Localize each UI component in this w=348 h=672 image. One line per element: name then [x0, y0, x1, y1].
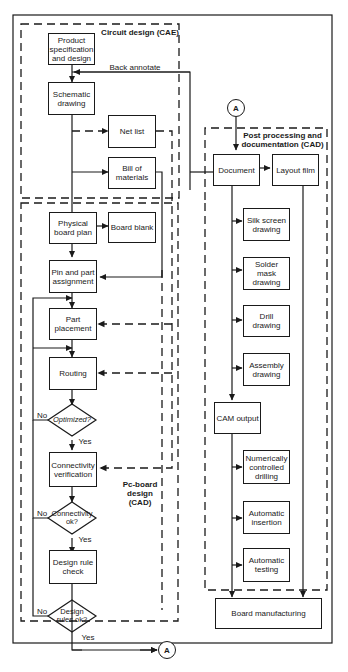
edge-label-back-annotate: Back annotate	[105, 63, 165, 72]
decision-design-rules-ok-label: Design rules ok?	[52, 604, 92, 628]
edge-label-yes-connectivity: Yes	[77, 535, 93, 544]
decision-optimized-label: Optimized?	[48, 414, 96, 426]
box-document: Document	[213, 154, 260, 186]
box-pin-and-part-assignment: Pin and part assignment	[49, 260, 97, 293]
box-schematic-drawing: Schematic drawing	[48, 82, 95, 115]
box-solder-mask-drawing: Solder mask drawing	[243, 257, 290, 290]
box-silk-screen-drawing: Silk screen drawing	[243, 208, 290, 241]
box-layout-film: Layout film	[272, 154, 319, 186]
edge-label-yes-design-rules: Yes	[80, 633, 96, 642]
box-board-blank: Board blank	[108, 212, 156, 243]
box-drill-drawing: Drill drawing	[243, 305, 290, 337]
connector-a-top: A	[227, 99, 245, 117]
box-automatic-testing: Automatic testing	[243, 548, 290, 582]
box-net-list: Net list	[108, 115, 156, 148]
box-routing: Routing	[49, 357, 97, 390]
box-part-placement: Part placement	[49, 308, 97, 340]
box-board-manufacturing: Board manufacturing	[215, 598, 322, 629]
box-connectivity-verification: Connectivity verification	[49, 452, 97, 487]
box-assembly-drawing: Assembly drawing	[243, 353, 290, 386]
box-cam-output: CAM output	[214, 402, 261, 434]
box-physical-board-plan: Physical board plan	[49, 212, 97, 244]
box-bill-of-materials: Bill of materials	[108, 157, 156, 189]
edge-label-no-connectivity: No	[35, 509, 49, 518]
edge-label-no-design-rules: No	[35, 607, 49, 616]
box-numerically-controlled-drilling: Numerically controlled drilling	[243, 450, 290, 484]
region-label-post-processing: Post processing and documentation (CAD)	[240, 131, 325, 149]
region-label-circuit-design: Circuit design (CAE)	[100, 28, 180, 37]
decision-connectivity-ok-label: Connectivity ok?	[48, 510, 96, 526]
connector-a-bottom: A	[158, 641, 176, 659]
edge-label-yes-optimized: Yes	[77, 437, 93, 446]
box-automatic-insertion: Automatic insertion	[243, 501, 290, 534]
region-label-pcboard-design: Pc-board design (CAD)	[120, 480, 160, 507]
edge-label-no-optimized: No	[35, 411, 49, 420]
box-product-specification: Product specification and design	[48, 33, 95, 65]
box-design-rule-check: Design rule check	[49, 550, 97, 584]
